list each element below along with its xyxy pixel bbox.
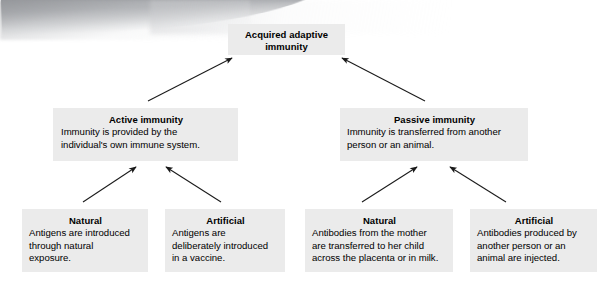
node-body: Immunity is provided by the individual's… xyxy=(61,126,231,151)
node-title: Natural xyxy=(29,215,142,227)
node-body: Immunity is transferred from another per… xyxy=(347,126,522,151)
edge-passive-natural-to-passive xyxy=(362,167,417,202)
node-title: Artificial xyxy=(477,215,591,227)
scan-shadow-artifact-inner xyxy=(0,0,250,40)
node-title: Passive immunity xyxy=(347,114,522,126)
node-body: Antibodies from the mother are transferr… xyxy=(312,227,447,264)
node-passive-natural: Natural Antibodies from the mother are t… xyxy=(305,209,453,272)
node-title: Acquired adaptive immunity xyxy=(228,29,345,52)
node-active-natural: Natural Antigens are introduced through … xyxy=(22,209,148,272)
node-active-artificial: Artificial Antigens are deliberately int… xyxy=(165,209,285,272)
node-acquired-adaptive-immunity: Acquired adaptive immunity xyxy=(228,24,345,55)
edge-active-artificial-to-active xyxy=(166,167,221,202)
edge-active-natural-to-active xyxy=(83,167,136,202)
edge-active-to-root xyxy=(148,58,232,101)
node-passive-artificial: Artificial Antibodies produced by anothe… xyxy=(470,209,597,272)
node-body: Antigens are deliberately introduced in … xyxy=(172,227,279,264)
node-title: Natural xyxy=(312,215,447,227)
diagram-canvas: Acquired adaptive immunity Active immuni… xyxy=(0,0,604,294)
edge-passive-to-root xyxy=(342,58,425,101)
node-passive-immunity: Passive immunity Immunity is transferred… xyxy=(340,108,528,161)
edge-passive-artificial-to-passive xyxy=(450,167,506,202)
node-body: Antibodies produced by another person or… xyxy=(477,227,591,264)
node-title: Artificial xyxy=(172,215,279,227)
node-active-immunity: Active immunity Immunity is provided by … xyxy=(53,108,238,161)
node-title: Active immunity xyxy=(61,114,231,126)
node-body: Antigens are introduced through natural … xyxy=(29,227,142,264)
